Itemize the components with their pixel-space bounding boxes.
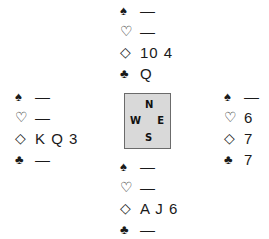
south-spades-row: ♠ — xyxy=(120,156,178,177)
west-spades-cards: — xyxy=(35,86,51,107)
north-diamonds-row: ◇ 10 4 xyxy=(120,42,173,63)
east-clubs-cards: 7 xyxy=(244,149,253,170)
north-hearts-row: ♡ — xyxy=(120,21,173,42)
diamond-icon: ◇ xyxy=(15,128,35,149)
west-clubs-cards: — xyxy=(35,149,51,170)
west-diamonds-cards: K Q 3 xyxy=(35,128,78,149)
compass-east-label: E xyxy=(157,115,164,126)
south-clubs-cards: — xyxy=(140,219,156,239)
east-clubs-row: ♣ 7 xyxy=(224,149,260,170)
west-hand: ♠ — ♡ — ◇ K Q 3 ♣ — xyxy=(15,86,78,170)
east-hand: ♠ — ♡ 6 ◇ 7 ♣ 7 xyxy=(224,86,260,170)
spade-icon: ♠ xyxy=(120,156,140,177)
compass-west-label: W xyxy=(130,115,141,126)
north-hearts-cards: — xyxy=(140,21,156,42)
club-icon: ♣ xyxy=(224,149,244,170)
compass-north-label: N xyxy=(145,99,153,110)
east-spades-cards: — xyxy=(244,86,260,107)
heart-icon: ♡ xyxy=(224,107,244,128)
west-hearts-row: ♡ — xyxy=(15,107,78,128)
compass-box: N W E S xyxy=(124,93,171,149)
east-spades-row: ♠ — xyxy=(224,86,260,107)
heart-icon: ♡ xyxy=(120,177,140,198)
spade-icon: ♠ xyxy=(224,86,244,107)
south-hand: ♠ — ♡ — ◇ A J 6 ♣ — xyxy=(120,156,178,239)
south-hearts-row: ♡ — xyxy=(120,177,178,198)
club-icon: ♣ xyxy=(120,63,140,84)
diamond-icon: ◇ xyxy=(120,198,140,219)
north-clubs-row: ♣ Q xyxy=(120,63,173,84)
west-diamonds-row: ◇ K Q 3 xyxy=(15,128,78,149)
diamond-icon: ◇ xyxy=(120,42,140,63)
east-diamonds-row: ◇ 7 xyxy=(224,128,260,149)
spade-icon: ♠ xyxy=(120,0,140,21)
south-diamonds-cards: A J 6 xyxy=(140,198,178,219)
north-clubs-cards: Q xyxy=(140,63,153,84)
west-hearts-cards: — xyxy=(35,107,51,128)
spade-icon: ♠ xyxy=(15,86,35,107)
north-spades-row: ♠ — xyxy=(120,0,173,21)
north-hand: ♠ — ♡ — ◇ 10 4 ♣ Q xyxy=(120,0,173,84)
compass-south-label: S xyxy=(145,132,152,143)
north-spades-cards: — xyxy=(140,0,156,21)
heart-icon: ♡ xyxy=(15,107,35,128)
south-diamonds-row: ◇ A J 6 xyxy=(120,198,178,219)
east-hearts-row: ♡ 6 xyxy=(224,107,260,128)
south-clubs-row: ♣ — xyxy=(120,219,178,239)
club-icon: ♣ xyxy=(120,219,140,239)
club-icon: ♣ xyxy=(15,149,35,170)
north-diamonds-cards: 10 4 xyxy=(140,42,173,63)
south-hearts-cards: — xyxy=(140,177,156,198)
west-clubs-row: ♣ — xyxy=(15,149,78,170)
west-spades-row: ♠ — xyxy=(15,86,78,107)
south-spades-cards: — xyxy=(140,156,156,177)
east-diamonds-cards: 7 xyxy=(244,128,253,149)
heart-icon: ♡ xyxy=(120,21,140,42)
diamond-icon: ◇ xyxy=(224,128,244,149)
east-hearts-cards: 6 xyxy=(244,107,253,128)
